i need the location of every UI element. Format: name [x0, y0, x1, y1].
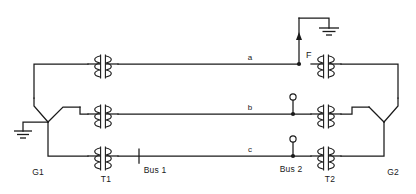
circuit-diagram: G1 T1	[0, 0, 416, 194]
g2-phase-a-lead	[341, 64, 398, 98]
t2-b-primary-coil	[318, 106, 323, 127]
transformer-t2-phase-b	[311, 105, 341, 128]
ground-symbol-fault	[319, 28, 339, 35]
fault-label: F	[306, 50, 312, 60]
fault-ground-lead	[299, 18, 329, 28]
open-terminal-phase-b-icon	[290, 94, 296, 100]
transformer-t2-phase-a	[311, 55, 341, 78]
g1-phase-b-lead	[80, 107, 88, 114]
bus-2: Bus 2	[280, 94, 303, 174]
phase-b-label: b	[248, 103, 253, 112]
generator-g1: G1	[14, 64, 88, 177]
t1-c-secondary-coil	[106, 148, 111, 169]
t2-b-secondary-coil	[329, 106, 334, 127]
fault-arrow-icon	[296, 32, 302, 40]
fault-junction-dot	[297, 62, 301, 66]
g1-neutral-lead	[23, 122, 48, 131]
t1-c-primary-coil	[95, 148, 100, 169]
generator-g2: G2	[341, 64, 399, 177]
g1-phase-a-lead	[34, 64, 88, 98]
phase-a-label: a	[248, 53, 253, 62]
transformer-t1-label: T1	[101, 174, 111, 184]
g2-arm-b	[369, 107, 384, 122]
t1-b-primary-coil	[95, 106, 100, 127]
bus-2-phase-b-dot	[291, 112, 295, 116]
generator-g2-label: G2	[387, 167, 399, 177]
generator-g1-label: G1	[32, 167, 44, 177]
t2-c-secondary-coil	[329, 148, 334, 169]
transformer-t1-phase-a	[88, 55, 118, 78]
phase-c-label: c	[248, 145, 252, 154]
circuit-diagram-canvas: G1 T1	[0, 0, 416, 194]
open-terminal-phase-c-icon	[290, 136, 296, 142]
g2-arm-a	[384, 98, 398, 122]
bus-2-label: Bus 2	[280, 164, 303, 174]
t2-c-primary-coil	[318, 148, 323, 169]
t1-b-secondary-coil	[106, 106, 111, 127]
g1-arm-a	[34, 98, 48, 122]
bus-1: Bus 1	[139, 149, 166, 175]
t2-a-primary-coil	[318, 56, 323, 77]
transformer-t1-phase-c	[88, 147, 118, 170]
bus-1-label: Bus 1	[144, 165, 167, 175]
transformer-t2-label: T2	[325, 174, 335, 184]
transformer-t1-phase-b	[88, 105, 118, 128]
g1-arm-b	[48, 107, 80, 122]
transformer-t2-phase-c	[311, 147, 341, 170]
t1-a-primary-coil	[95, 56, 100, 77]
bus-2-phase-c-dot	[291, 154, 295, 158]
ground-symbol-g1	[14, 131, 32, 138]
t2-a-secondary-coil	[329, 56, 334, 77]
g2-phase-b-lead	[341, 107, 369, 114]
t1-a-secondary-coil	[106, 56, 111, 77]
transmission-lines: a b c	[118, 53, 311, 156]
g1-arm-c	[48, 122, 88, 156]
g2-arm-c	[341, 122, 384, 156]
